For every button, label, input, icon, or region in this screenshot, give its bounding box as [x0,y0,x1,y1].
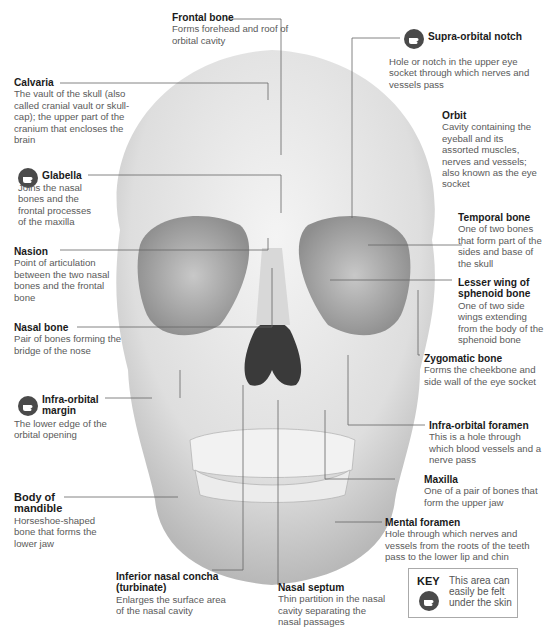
hand-press-icon [419,591,439,611]
label-glabella: Glabella [42,170,90,181]
label-maxilla: Maxilla One of a pair of bones that form… [424,474,544,508]
label-orbit: Orbit Cavity containing the eyeball and … [442,110,542,190]
label-lesser-wing-sphenoid: Lesser wing of sphenoid bone One of two … [458,277,544,345]
key-legend: KEY This area can easily be felt under t… [408,568,518,618]
label-zygomatic-bone: Zygomatic bone Forms the cheekbone and s… [424,353,544,387]
label-temporal-bone: Temporal bone One of two bones that form… [458,212,544,269]
label-frontal-bone: Frontal bone Forms forehead and roof of … [172,12,292,46]
label-nasion: Nasion Point of articulation between the… [14,246,110,303]
label-body-of-mandible: Body of mandible Horseshoe-shaped bone t… [14,492,104,549]
label-glabella-desc: Joins the nasal bones and the frontal pr… [18,182,98,228]
label-nasal-bone: Nasal bone Pair of bones forming the bri… [14,322,124,356]
label-supra-orbital-notch: Supra-orbital notch [428,31,544,42]
palpable-hand-icon [18,396,38,416]
label-mental-foramen: Mental foramen Hole through which nerves… [385,517,544,563]
label-infra-orbital-margin-desc: The lower edge of the orbital opening [14,418,124,441]
label-infra-orbital-foramen: Infra-orbital foramen This is a hole thr… [429,420,544,466]
palpable-hand-icon [404,29,424,49]
label-calvaria: Calvaria The vault of the skull (also ca… [14,77,139,145]
label-nasal-septum: Nasal septum Thin partition in the nasal… [278,582,390,628]
label-infra-orbital-margin: Infra-orbital margin [42,394,104,417]
key-title: KEY [417,575,440,587]
key-description: This area can easily be felt under the s… [449,575,515,608]
label-supra-orbital-notch-desc: Hole or notch in the upper eye socket th… [389,56,541,90]
teeth [190,429,355,503]
label-inferior-nasal-concha: Inferior nasal concha (turbinate) Enlarg… [116,571,236,617]
